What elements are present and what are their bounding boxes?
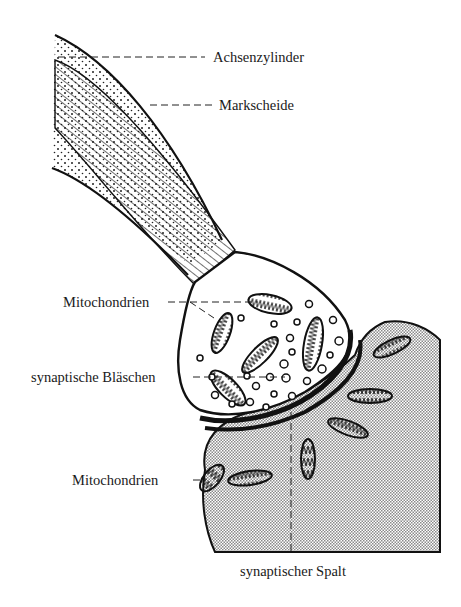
label-mitochondrien-presynaptic: Mitochondrien	[63, 295, 149, 310]
label-synaptische-blaeschen: synaptische Bläschen	[31, 370, 155, 385]
label-achsenzylinder: Achsenzylinder	[213, 50, 304, 65]
label-mitochondrien-postsynaptic: Mitochondrien	[72, 473, 158, 488]
label-synaptischer-spalt: synaptischer Spalt	[240, 564, 346, 579]
label-markscheide: Markscheide	[219, 98, 294, 113]
